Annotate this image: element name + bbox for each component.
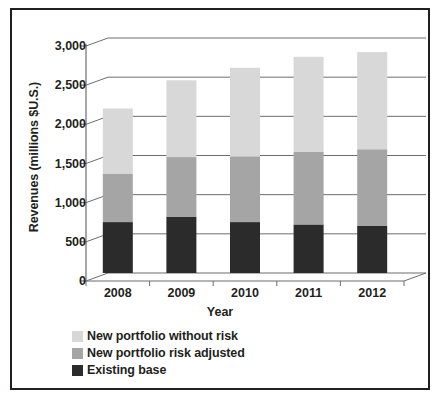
legend-label: New portfolio without risk — [87, 329, 238, 343]
x-tick-label: 2010 — [217, 286, 273, 300]
x-axis-title: Year — [0, 305, 440, 319]
chart-figure: Revenues (millions $U.S.) 05001,0001,500… — [0, 0, 440, 405]
legend-label: Existing base — [87, 363, 166, 377]
x-tick-label: 2009 — [153, 286, 209, 300]
x-tick-label: 2012 — [344, 286, 400, 300]
legend-swatch — [72, 365, 83, 376]
legend-swatch — [72, 331, 83, 342]
legend-item: New portfolio without risk — [72, 328, 372, 344]
legend-item: Existing base — [72, 362, 372, 378]
chart-legend: New portfolio without riskNew portfolio … — [72, 328, 372, 379]
legend-swatch — [72, 348, 83, 359]
x-tick-label: 2011 — [281, 286, 337, 300]
legend-item: New portfolio risk adjusted — [72, 345, 372, 361]
legend-label: New portfolio risk adjusted — [87, 346, 245, 360]
x-tick-label: 2008 — [90, 286, 146, 300]
